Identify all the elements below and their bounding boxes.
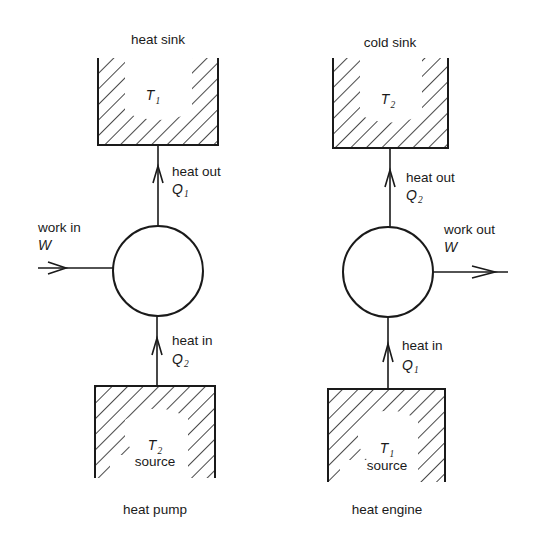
thermodynamic-cycles-figure: heat sink T1 heat out Q1 work in W heat … xyxy=(0,0,541,541)
heat-in-label: heat in xyxy=(402,338,443,353)
heat-engine-diagram: cold sink T2 heat out Q2 work out W heat… xyxy=(328,35,508,517)
heat-pump-device xyxy=(113,226,203,316)
heat-pump-diagram: heat sink T1 heat out Q1 work in W heat … xyxy=(37,32,221,517)
heat-in-label: heat in xyxy=(172,333,213,348)
heat-out-symbol: Q2 xyxy=(406,187,423,205)
heat-in-arrow: heat in Q1 xyxy=(383,317,443,389)
heat-out-arrow: heat out Q1 xyxy=(153,145,221,225)
work-in-label: work in xyxy=(37,220,81,235)
source-label: source xyxy=(367,458,408,473)
work-out-symbol: W xyxy=(444,239,459,255)
heat-out-symbol: Q1 xyxy=(172,181,189,199)
work-out-arrow: work out W xyxy=(433,222,508,278)
work-out-label: work out xyxy=(443,222,495,237)
heat-in-symbol: Q1 xyxy=(402,357,419,375)
heat-in-arrow: heat in Q2 xyxy=(152,316,213,386)
heat-sink-title: heat sink xyxy=(131,32,185,47)
heat-engine-device xyxy=(343,227,433,317)
heat-engine-caption: heat engine xyxy=(352,502,423,517)
heat-in-symbol: Q2 xyxy=(172,351,189,369)
heat-out-label: heat out xyxy=(172,164,221,179)
heat-out-label: heat out xyxy=(406,170,455,185)
source-label: source xyxy=(135,454,176,469)
source-reservoir: T1 source xyxy=(328,389,445,482)
work-in-arrow: work in W xyxy=(37,220,113,274)
cold-sink-reservoir: cold sink T2 xyxy=(333,35,448,148)
source-reservoir: T2 source xyxy=(95,386,215,478)
heat-out-arrow: heat out Q2 xyxy=(385,148,455,227)
work-in-symbol: W xyxy=(38,237,53,253)
cold-sink-title: cold sink xyxy=(364,35,417,50)
heat-sink-reservoir: heat sink T1 xyxy=(98,32,218,145)
heat-pump-caption: heat pump xyxy=(123,502,187,517)
